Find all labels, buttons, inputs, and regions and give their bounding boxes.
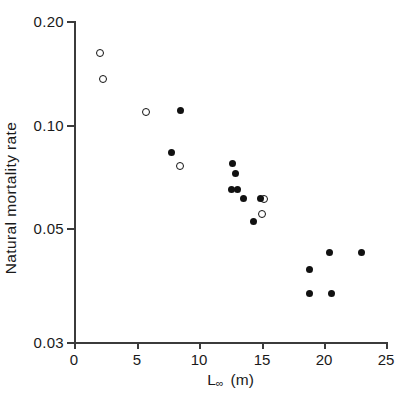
data-point-open-circles-0 [96,49,104,57]
data-point-filled-circles-10 [326,249,333,256]
x-axis-tick-25 [386,342,388,349]
x-axis-tick-label-20: 20 [304,352,344,367]
x-axis-line [74,342,387,344]
x-axis-title-units: (m) [231,371,254,388]
data-point-filled-circles-0 [177,107,184,114]
x-axis-title-symbol: L [207,371,216,388]
data-point-filled-circles-12 [306,290,313,297]
x-axis-tick-label-25: 25 [366,352,406,367]
x-axis-tick-label-10: 10 [179,352,219,367]
data-point-filled-circles-1 [168,149,175,156]
y-axis-tick-0.03 [67,342,74,344]
x-axis-tick-label-15: 15 [242,352,282,367]
x-axis-title: L∞(m) [74,372,387,389]
x-axis-tick-0 [74,342,76,349]
data-point-filled-circles-9 [306,266,313,273]
y-axis-tick-label-0.20: 0.20 [34,14,64,29]
x-axis-tick-label-0: 0 [54,352,94,367]
data-point-filled-circles-8 [250,218,257,225]
data-point-filled-circles-6 [240,195,247,202]
y-axis-tick-0.20 [67,21,74,23]
y-axis-tick-label-0.05: 0.05 [34,221,64,236]
y-axis-title: Natural mortality rate [0,0,22,396]
x-axis-tick-label-5: 5 [117,352,157,367]
y-axis-line [74,21,76,343]
scatter-plot-figure: 0.20 0.10 0.05 0.03 0 5 10 15 20 25 Natu… [0,0,408,396]
x-axis-tick-10 [199,342,201,349]
y-axis-tick-label-0.03: 0.03 [34,335,64,350]
data-point-filled-circles-3 [232,170,239,177]
data-point-open-circles-3 [176,162,184,170]
data-point-filled-circles-2 [229,160,236,167]
y-axis-tick-0.10 [67,125,74,127]
y-axis-tick-label-0.10: 0.10 [34,118,64,133]
data-point-filled-circles-11 [358,249,365,256]
y-axis-tick-0.05 [67,228,74,230]
data-point-filled-circles-7 [257,195,264,202]
data-point-filled-circles-13 [328,290,335,297]
x-axis-tick-5 [137,342,139,349]
data-point-open-circles-2 [142,108,150,116]
x-axis-tick-15 [262,342,264,349]
data-point-open-circles-5 [258,210,266,218]
x-axis-tick-20 [324,342,326,349]
data-point-open-circles-1 [99,75,107,83]
data-point-filled-circles-5 [234,186,241,193]
x-axis-title-subscript: ∞ [216,377,224,389]
